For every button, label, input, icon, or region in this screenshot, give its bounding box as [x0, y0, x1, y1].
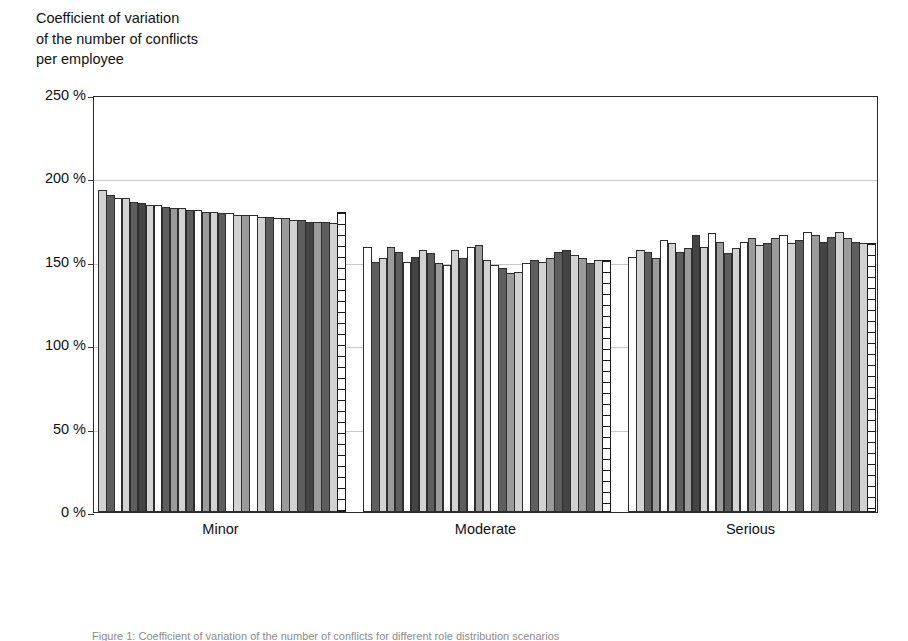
y-tick-label-100: 100 %: [8, 337, 86, 353]
y-tick-label-150: 150 %: [8, 254, 86, 270]
plot-area: [93, 96, 878, 513]
category-labels: MinorModerateSerious: [93, 521, 878, 545]
y-tick-0: [88, 514, 94, 515]
bars-layer: [94, 97, 877, 512]
y-tick-label-250: 250 %: [8, 87, 86, 103]
category-label-serious: Serious: [726, 521, 775, 537]
category-label-minor: Minor: [202, 521, 238, 537]
chart-legend: ... Role distribution scenarios Medium o…: [0, 556, 908, 590]
y-tick-label-200: 200 %: [8, 170, 86, 186]
category-label-moderate: Moderate: [455, 521, 516, 537]
y-tick-label-0: 0 %: [8, 504, 86, 520]
bar-moderate-medium: [602, 260, 611, 512]
axis-title: Coefficient of variation of the number o…: [36, 8, 198, 70]
bar-minor-medium: [337, 212, 346, 512]
figure-caption: Figure 1: Coefficient of variation of th…: [92, 630, 892, 641]
y-axis-labels: 0 %50 %100 %150 %200 %250 %: [0, 96, 86, 513]
bar-serious-medium: [867, 243, 876, 512]
y-tick-label-50: 50 %: [8, 421, 86, 437]
